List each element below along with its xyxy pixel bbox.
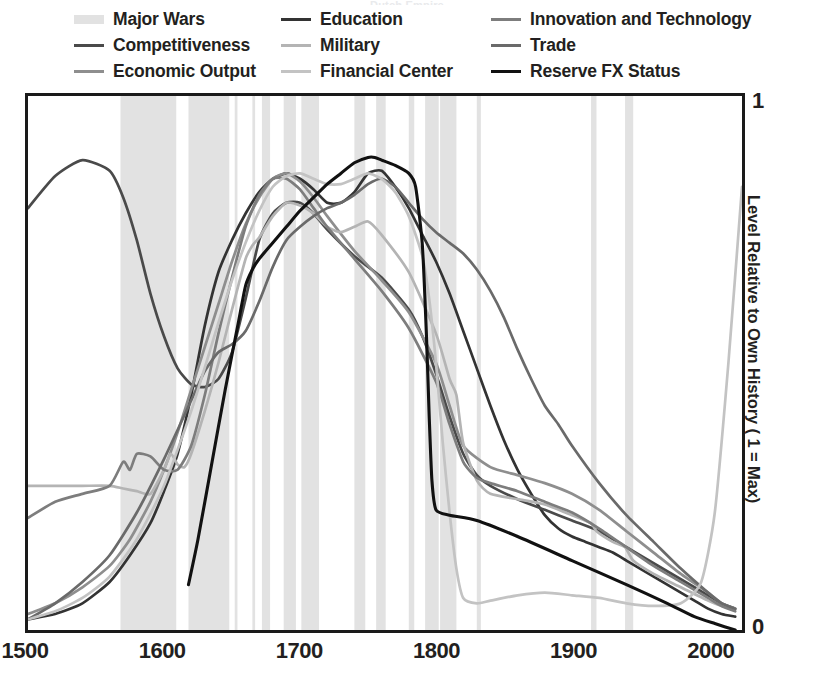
legend-label: Education [320,9,403,30]
legend-item-education[interactable]: Education [281,6,453,32]
legend-label: Trade [530,35,576,56]
major-war-band [477,96,481,630]
legend-column-1: Major Wars Competitiveness Economic Outp… [74,6,256,84]
legend-item-major-wars[interactable]: Major Wars [74,6,256,32]
legend-label: Financial Center [320,61,453,82]
y-axis-label: Level Relative to Own History ( 1 = Max) [744,195,763,223]
legend-item-financial-center[interactable]: Financial Center [281,58,453,84]
economic-output-swatch-icon [74,70,104,73]
major-war-band [591,96,596,630]
legend-item-reserve-fx-status[interactable]: Reserve FX Status [491,58,751,84]
x-tick-1600: 1600 [139,638,186,664]
cropped-chart-title: Dutch Empire [0,0,814,5]
legend-label: Reserve FX Status [530,61,680,82]
legend-column-2: Education Military Financial Center [281,6,453,84]
legend-item-economic-output[interactable]: Economic Output [74,58,256,84]
legend-label: Innovation and Technology [530,9,751,30]
legend-label: Competitiveness [113,35,250,56]
trade-swatch-icon [491,44,521,47]
line-chart-svg [28,96,742,630]
legend-item-innovation-and-technology[interactable]: Innovation and Technology [491,6,751,32]
legend-column-3: Innovation and Technology Trade Reserve … [491,6,751,84]
x-tick-1800: 1800 [413,638,460,664]
legend-item-trade[interactable]: Trade [491,32,751,58]
legend-item-military[interactable]: Military [281,32,453,58]
x-tick-1900: 1900 [550,638,597,664]
military-swatch-icon [281,44,311,47]
legend-label: Major Wars [113,9,205,30]
series-line-reserve-fx-status [188,157,735,630]
x-tick-1500: 1500 [2,638,49,664]
major-war-band [235,96,238,630]
legend-label: Economic Output [113,61,256,82]
major-war-band [252,96,255,630]
financial-center-swatch-icon [281,70,311,73]
major-wars-swatch-icon [74,15,104,24]
legend-label: Military [320,35,380,56]
reserve-fx-status-swatch-icon [491,70,521,73]
y-tick-min: 0 [752,614,764,640]
chart-legend: Major Wars Competitiveness Economic Outp… [74,6,814,84]
legend-item-competitiveness[interactable]: Competitiveness [74,32,256,58]
education-swatch-icon [281,18,311,21]
plot-area [25,93,745,633]
competitiveness-swatch-icon [74,44,104,47]
x-tick-1700: 1700 [276,638,323,664]
x-tick-2000: 2000 [687,638,734,664]
major-war-band [262,96,270,630]
y-tick-max: 1 [752,88,764,114]
innovation-and-technology-swatch-icon [491,18,521,21]
